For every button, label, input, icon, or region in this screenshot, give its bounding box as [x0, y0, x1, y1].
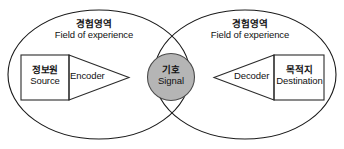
left-field-of-experience-english: Field of experience	[42, 30, 146, 41]
source-english: Source	[21, 76, 69, 87]
signal-english: Signal	[148, 76, 194, 87]
right-field-of-experience-english: Field of experience	[198, 30, 302, 41]
encoder-english: Encoder	[70, 71, 114, 82]
destination-label: 목적지 Destination	[272, 65, 327, 86]
destination-english: Destination	[272, 76, 327, 87]
right-field-of-experience-label: 경험영역 Field of experience	[198, 19, 302, 40]
signal-label: 기호 Signal	[148, 65, 194, 86]
encoder-label: Encoder	[70, 71, 114, 82]
schramm-communication-diagram: 경험영역 Field of experience 경험영역 Field of e…	[0, 0, 344, 149]
source-label: 정보원 Source	[21, 65, 69, 86]
left-field-of-experience-label: 경험영역 Field of experience	[42, 19, 146, 40]
